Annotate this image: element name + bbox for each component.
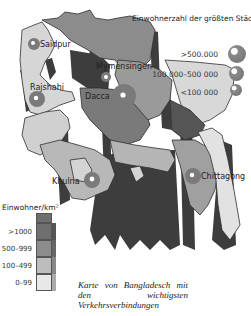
density-swatch-0-99	[36, 274, 52, 291]
city-legend-label-medium: 100 000–500 000	[152, 70, 218, 79]
density-swatch-side	[52, 274, 56, 291]
density-legend-title: Einwohner/km²	[2, 203, 59, 212]
city-legend-circle-medium	[229, 66, 244, 81]
density-legend-top-cap	[36, 213, 52, 223]
density-swatch-500-999	[36, 240, 52, 257]
city-legend-label-large: >500.000	[181, 50, 218, 59]
city-legend-label-small: <100 000	[181, 88, 218, 97]
city-label-chittagong: Chittagong	[201, 173, 245, 181]
density-label-0-99: 0–99	[0, 279, 32, 287]
city-label-saidpur: Saidpur	[40, 41, 71, 49]
city-label-rajshahi: Rajshahi	[30, 84, 64, 92]
density-swatch-100-499	[36, 257, 52, 274]
density-label-500-999: 500–999	[0, 245, 32, 253]
density-swatch-gt-1000	[36, 223, 52, 240]
density-label-gt-1000: >1000	[0, 228, 32, 236]
city-marker-saidpur	[28, 38, 40, 50]
city-marker-chittagong	[185, 168, 201, 184]
city-marker-mymensingen	[101, 72, 111, 82]
density-swatch-side	[52, 223, 56, 240]
city-legend-circle-small	[230, 84, 242, 96]
city-marker-rajshahi	[29, 91, 45, 107]
city-label-dacca: Dacca	[85, 93, 110, 101]
city-legend-title: Einwohnerzahl der größten Städte	[132, 14, 251, 23]
city-label-khulna: Khulna	[52, 178, 80, 186]
city-marker-dacca	[112, 84, 136, 108]
city-legend-circle-large	[228, 45, 246, 63]
density-swatch-side	[52, 257, 56, 274]
density-label-100-499: 100–499	[0, 262, 32, 270]
city-marker-khulna	[84, 172, 100, 188]
city-label-mymensingen: Mymensingen	[96, 63, 152, 71]
map-caption: Karte von Bangladesch mit den wichtigste…	[78, 280, 188, 310]
density-swatch-side	[52, 240, 56, 257]
